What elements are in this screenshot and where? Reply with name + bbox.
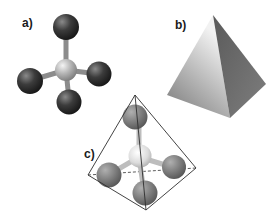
panel-c-label: c) (84, 147, 95, 161)
outer-atom-top (53, 14, 79, 40)
outer-atom-right (162, 155, 186, 179)
outer-atom-left (17, 68, 43, 94)
panel-c: c) (84, 95, 196, 210)
outer-atom-top (123, 105, 148, 130)
outer-atom-bottom (57, 90, 82, 115)
tetrahedral-geometry-figure: a) b) c) (0, 0, 279, 221)
panel-b-label: b) (175, 18, 186, 32)
outer-atom-right (87, 62, 112, 87)
panel-a-label: a) (22, 16, 33, 30)
central-atom (55, 59, 77, 81)
panel-b: b) (167, 15, 266, 118)
outer-atom-left (97, 163, 122, 188)
panel-a: a) (17, 14, 112, 115)
